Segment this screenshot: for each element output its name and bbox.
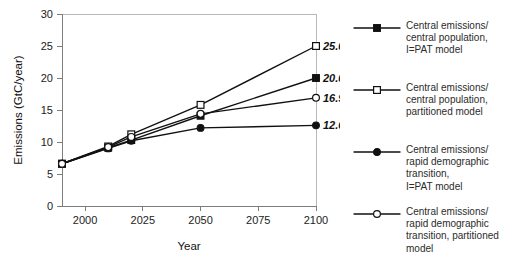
series-2: [59, 122, 320, 167]
y-tick-label: 15: [41, 104, 53, 116]
marker-filled-circle: [197, 125, 204, 132]
series-line: [62, 98, 316, 164]
series-line: [62, 46, 316, 164]
series-1: [59, 43, 320, 168]
x-tick-label: 2100: [304, 214, 328, 226]
marker-open-circle: [197, 110, 204, 117]
series-line: [62, 125, 316, 163]
chart-series-group: [59, 43, 320, 168]
endpoint-value-label: 16.9: [323, 92, 340, 104]
marker-open-circle: [374, 211, 381, 218]
series-3: [59, 94, 320, 167]
legend-key-open-square-icon: [352, 83, 404, 97]
y-tick-label: 0: [47, 200, 53, 212]
x-tick-label: 2000: [73, 214, 97, 226]
plot-area: 05101520253020002025205020752100 20.025.…: [0, 0, 340, 262]
legend-key-filled-square-icon: [352, 21, 404, 35]
endpoint-value-label: 12.6: [323, 119, 340, 131]
x-axis-title: Year: [177, 240, 200, 252]
x-tick-label: 2050: [188, 214, 212, 226]
y-tick-label: 10: [41, 136, 53, 148]
marker-open-square: [197, 101, 204, 108]
marker-open-circle: [313, 94, 320, 101]
endpoint-value-label: 20.0: [322, 72, 340, 84]
marker-open-square: [313, 43, 320, 50]
axis-titles-group: YearEmissions (GtC/year): [12, 55, 201, 252]
y-tick-label: 20: [41, 72, 53, 84]
legend-key-filled-circle-icon: [352, 145, 404, 159]
legend-label: Central emissions/ rapid demographic tra…: [404, 144, 525, 193]
marker-open-circle: [128, 133, 135, 140]
legend-entry[interactable]: Central emissions/ rapid demographic tra…: [352, 144, 525, 193]
legend-entry[interactable]: Central emissions/ rapid demographic tra…: [352, 206, 525, 255]
series-0: [59, 75, 320, 168]
legend-entry[interactable]: Central emissions/ central population, I…: [352, 20, 525, 57]
emissions-projection-figure: 05101520253020002025205020752100 20.025.…: [0, 0, 525, 262]
legend-entry[interactable]: Central emissions/ central population, p…: [352, 82, 525, 119]
endpoint-labels-group: 20.025.012.616.9: [322, 40, 340, 131]
x-tick-label: 2025: [131, 214, 155, 226]
legend-label: Central emissions/ central population, I…: [404, 20, 525, 57]
chart-legend: Central emissions/ central population, I…: [352, 10, 525, 250]
endpoint-value-label: 25.0: [322, 40, 340, 52]
marker-open-circle: [59, 160, 66, 167]
marker-open-circle: [105, 144, 112, 151]
marker-filled-circle: [374, 149, 381, 156]
legend-label: Central emissions/ rapid demographic tra…: [404, 206, 525, 255]
marker-open-square: [374, 87, 381, 94]
legend-key-open-circle-icon: [352, 207, 404, 221]
y-tick-label: 5: [47, 168, 53, 180]
marker-filled-square: [374, 25, 381, 32]
y-tick-label: 30: [41, 8, 53, 20]
legend-label: Central emissions/ central population, p…: [404, 82, 525, 119]
marker-filled-circle: [313, 122, 320, 129]
y-axis-title: Emissions (GtC/year): [12, 55, 24, 164]
marker-filled-square: [313, 75, 320, 82]
line-chart-svg: 05101520253020002025205020752100 20.025.…: [0, 0, 340, 262]
chart-axes: 05101520253020002025205020752100: [41, 8, 328, 226]
y-tick-label: 25: [41, 40, 53, 52]
x-tick-label: 2075: [246, 214, 270, 226]
